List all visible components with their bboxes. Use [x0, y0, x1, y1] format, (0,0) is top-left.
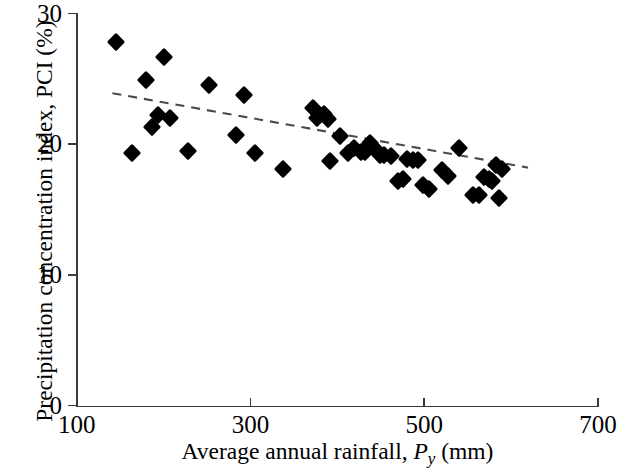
x-axis-line [76, 406, 599, 408]
data-point [235, 85, 253, 103]
x-axis-title-post: (mm) [435, 438, 493, 464]
data-point [179, 141, 197, 159]
data-point [321, 152, 339, 170]
trendline [0, 0, 618, 468]
x-tick-700 [597, 398, 599, 407]
x-axis-title-pre: Average annual rainfall, [182, 438, 414, 464]
y-axis-title: Precipitation concentration index, PCI (… [33, 22, 57, 422]
data-point [273, 160, 291, 178]
scatter-plot-area: 0102030 100300500700 Precipitation conce… [0, 0, 618, 468]
y-tick-30 [68, 13, 77, 15]
data-point [331, 127, 349, 145]
chart-figure: 0102030 100300500700 Precipitation conce… [0, 0, 618, 468]
data-point [200, 76, 218, 94]
data-point [490, 189, 508, 207]
data-point [450, 139, 468, 157]
x-axis-title-symbol: P [413, 438, 427, 464]
data-point [122, 144, 140, 162]
data-point [227, 126, 245, 144]
x-axis-title: Average annual rainfall, Py (mm) [76, 440, 599, 468]
data-point [137, 71, 155, 89]
x-tick-300 [250, 398, 252, 407]
data-point [107, 33, 125, 51]
data-point [154, 47, 172, 65]
y-tick-20 [68, 143, 77, 145]
x-tick-500 [423, 398, 425, 407]
y-tick-10 [68, 274, 77, 276]
data-point [246, 144, 264, 162]
x-tick-100 [76, 398, 78, 407]
y-axis-line [76, 13, 78, 407]
